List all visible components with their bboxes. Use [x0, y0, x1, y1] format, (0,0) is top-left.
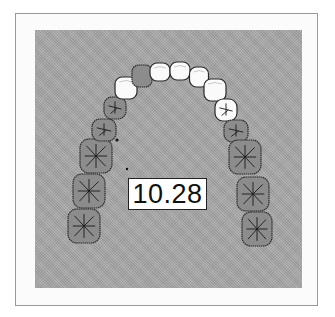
tooth-right-molar-1 — [229, 140, 261, 174]
tooth-left-molar-1 — [80, 139, 112, 173]
reference-dot — [126, 168, 128, 170]
tooth-right-canine — [204, 79, 226, 101]
measurement-value: 10.28 — [132, 181, 202, 208]
tooth-right-molar-2 — [237, 177, 269, 211]
measurement-label-box: 10.28 — [128, 178, 207, 210]
tooth-right-premolar-1 — [215, 99, 237, 121]
tooth-left-lateral-incisor — [132, 65, 152, 87]
dental-arch — [0, 0, 335, 317]
tooth-right-molar-3 — [242, 212, 272, 246]
tooth-right-central-incisor — [170, 62, 190, 80]
tooth-left-premolar-1 — [104, 97, 126, 119]
tooth-left-molar-3 — [68, 209, 100, 243]
contact-mark — [115, 138, 118, 141]
tooth-left-molar-2 — [73, 174, 105, 208]
tooth-left-premolar-2 — [92, 119, 116, 141]
tooth-right-premolar-2 — [224, 120, 248, 142]
tooth-left-central-incisor — [150, 63, 170, 81]
